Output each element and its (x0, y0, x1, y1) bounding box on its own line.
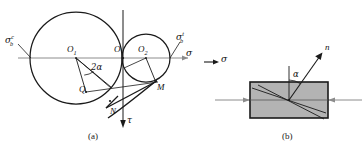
label-sigma-axis: σ (186, 48, 192, 58)
label-sigma-b-c: σcb (5, 33, 13, 47)
left-load-arrowhead (243, 97, 250, 102)
line-q-m (86, 82, 158, 92)
label-normal-n: n (325, 42, 330, 52)
label-o: O (114, 44, 121, 54)
origin-point-o (122, 57, 124, 59)
label-o2: O2 (138, 44, 148, 56)
tau-axis-arrowhead (120, 120, 126, 128)
label-alpha: α (293, 69, 299, 79)
line-o-o2-stub (124, 58, 146, 68)
label-2alpha: 2α (91, 62, 102, 72)
label-q: Q (79, 84, 86, 94)
figure-canvas (0, 0, 362, 152)
leader-line-sigma-bt (170, 42, 180, 58)
right-load-arrowhead (328, 97, 335, 102)
element-center-point (288, 99, 290, 101)
panel-b-group (204, 52, 362, 119)
panel-a-group (18, 10, 188, 128)
label-sigma-b-t: σtb (176, 30, 183, 44)
label-o1: O1 (67, 44, 77, 56)
label-sigma-legend: σ (221, 54, 227, 64)
caption-panel-a: (a) (88, 131, 98, 141)
point-n-marker (109, 100, 111, 102)
label-m: M (157, 82, 165, 92)
normal-direction-arrowhead (315, 52, 322, 60)
leader-line-sigma-bc (18, 44, 31, 58)
radius-o2-m (146, 58, 155, 80)
figure-root: σcb σtb O1 O O2 2α Q M N τ σ (a) σ n α (0, 0, 362, 152)
sigma-legend-arrowhead (213, 60, 219, 65)
angle-arc-2alpha (84, 72, 93, 75)
label-tau-axis: τ (127, 115, 132, 125)
label-n-point: N (110, 106, 116, 116)
caption-panel-b: (b) (282, 131, 293, 141)
